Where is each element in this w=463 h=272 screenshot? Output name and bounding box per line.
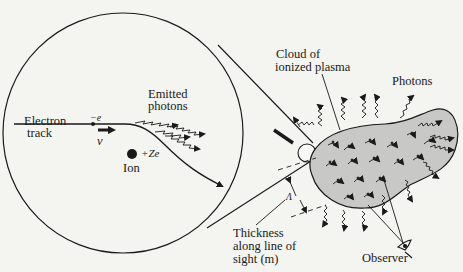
- label-ion-charge: +Ze: [141, 147, 159, 160]
- cloud-leader-line: [322, 74, 340, 130]
- label-cloud-2: ionized plasma: [275, 61, 350, 74]
- plasma-cloud: [310, 109, 458, 208]
- label-photons: Photons: [392, 75, 432, 88]
- pointer-bar: [274, 130, 293, 143]
- label-velocity: v: [97, 135, 103, 148]
- diagram-graphics: [0, 0, 463, 272]
- label-electron-track-2: track: [27, 127, 52, 140]
- ion-dot: [127, 149, 137, 159]
- label-emitted-photons-2: photons: [148, 100, 188, 113]
- label-thickness-symbol: Λ: [286, 190, 292, 203]
- label-electron-charge: −e: [90, 111, 101, 124]
- label-observer: Observer: [362, 252, 408, 265]
- label-ion: Ion: [123, 162, 140, 175]
- diagram-canvas: Electron track −e v +Ze Ion Emitted phot…: [0, 0, 463, 272]
- emitted-photon-arrows: [135, 121, 204, 149]
- label-thickness-3: sight (m): [233, 253, 278, 266]
